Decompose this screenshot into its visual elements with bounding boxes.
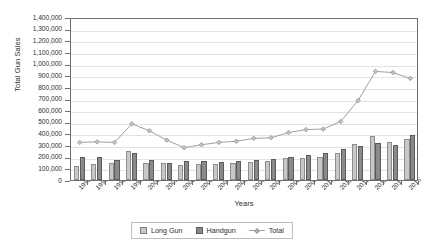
y-axis-tick-label: 0 <box>16 178 62 185</box>
total-line-marker-2002 <box>182 145 187 150</box>
legend-swatch-long-gun-icon <box>140 227 147 234</box>
total-line-marker-2001 <box>164 138 169 143</box>
y-axis-tick-label: 400,000 <box>16 131 62 138</box>
total-line-marker-2015 <box>408 76 413 81</box>
total-line-marker-2008 <box>286 130 291 135</box>
y-axis-tick-label: 500,000 <box>16 119 62 126</box>
total-line-marker-2000 <box>147 129 152 134</box>
legend-item-total: Total <box>249 226 284 235</box>
y-axis-tick-mark <box>65 181 70 182</box>
y-axis-tick-label: 100,000 <box>16 166 62 173</box>
total-line-path <box>80 71 411 147</box>
total-line-marker-2004 <box>217 140 222 145</box>
total-line-marker-1997 <box>95 140 100 145</box>
total-line-marker-2010 <box>321 127 326 132</box>
legend-label-handgun: Handgun <box>207 226 236 235</box>
y-axis-tick-label: 1,300,000 <box>16 26 62 33</box>
total-line-marker-2014 <box>391 70 396 75</box>
y-axis-tick-label: 900,000 <box>16 73 62 80</box>
y-axis-tick-label: 1,000,000 <box>16 61 62 68</box>
legend-label-total: Total <box>269 226 284 235</box>
y-axis-tick-label: 1,100,000 <box>16 50 62 57</box>
y-axis-tick-label: 600,000 <box>16 108 62 115</box>
legend-label-long-gun: Long Gun <box>151 226 183 235</box>
total-line-marker-2005 <box>234 139 239 144</box>
total-line-marker-2007 <box>269 135 274 140</box>
legend-swatch-total-icon <box>249 227 265 234</box>
plot-area <box>70 18 418 181</box>
legend-swatch-handgun-icon <box>196 227 203 234</box>
y-axis-tick-label: 300,000 <box>16 143 62 150</box>
y-axis-tick-label: 800,000 <box>16 85 62 92</box>
y-axis-tick-label: 1,400,000 <box>16 15 62 22</box>
total-line-marker-2009 <box>304 127 309 132</box>
x-axis-title: Years <box>70 199 418 208</box>
y-axis-tick-label: 200,000 <box>16 154 62 161</box>
total-line-series <box>71 19 419 182</box>
y-axis-tick-label: 700,000 <box>16 96 62 103</box>
chart-legend: Long Gun Handgun Total <box>131 222 293 239</box>
total-line-marker-2013 <box>373 69 378 74</box>
legend-item-handgun: Handgun <box>196 226 236 235</box>
legend-item-long-gun: Long Gun <box>140 226 183 235</box>
total-line-marker-1996 <box>77 140 82 145</box>
y-axis-tick-label: 1,200,000 <box>16 38 62 45</box>
total-line-marker-2003 <box>199 142 204 147</box>
chart-container: Total Gun Sales Years 1,400,0001,300,000… <box>0 0 435 250</box>
total-line-marker-2006 <box>251 136 256 141</box>
